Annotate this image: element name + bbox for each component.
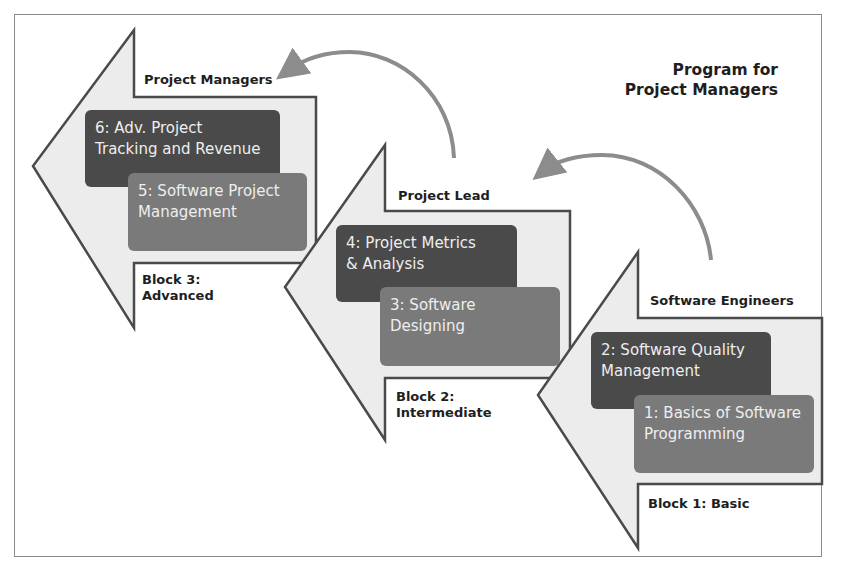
course-6-line2: Tracking and Revenue [95, 139, 270, 160]
course-box-3: 3: Software Designing [380, 287, 560, 366]
role-label-project-managers: Project Managers [144, 72, 273, 88]
course-2-line2: Management [601, 361, 761, 382]
block-2-line2: Intermediate [396, 405, 491, 421]
role-label-software-engineers: Software Engineers [650, 293, 794, 309]
course-1-line1: 1: Basics of Software [644, 403, 804, 424]
block-2-line1: Block 2: [396, 389, 491, 405]
block-3-line2: Advanced [142, 288, 214, 304]
title-line1: Program for [620, 60, 778, 80]
course-6-line1: 6: Adv. Project [95, 118, 270, 139]
course-box-5: 5: Software Project Management [128, 173, 307, 251]
course-5-line1: 5: Software Project [138, 181, 297, 202]
course-2-line1: 2: Software Quality [601, 340, 761, 361]
course-box-1: 1: Basics of Software Programming [634, 395, 814, 473]
course-1-line2: Programming [644, 424, 804, 445]
title-line2: Project Managers [620, 80, 778, 100]
block-label-3: Block 3: Advanced [142, 272, 214, 304]
block-label-1: Block 1: Basic [648, 496, 750, 512]
course-3-line1: 3: Software [390, 295, 550, 316]
course-3-line2: Designing [390, 316, 550, 337]
block-1-line1: Block 1: Basic [648, 496, 750, 512]
block-3-line1: Block 3: [142, 272, 214, 288]
diagram-title: Program for Project Managers [620, 60, 778, 100]
course-4-line2: & Analysis [346, 254, 507, 275]
role-label-project-lead: Project Lead [398, 188, 490, 204]
course-5-line2: Management [138, 202, 297, 223]
block-label-2: Block 2: Intermediate [396, 389, 491, 421]
course-4-line1: 4: Project Metrics [346, 233, 507, 254]
